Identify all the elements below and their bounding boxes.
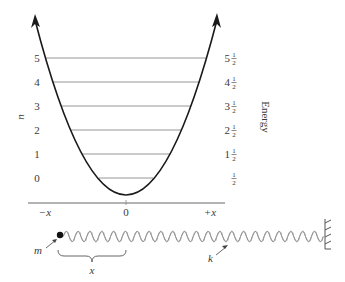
- x-axis-tick-zero: 0: [123, 206, 129, 218]
- energy-label: 312: [225, 99, 237, 115]
- displacement-brace: [58, 250, 126, 262]
- svg-text:5: 5: [225, 52, 231, 64]
- svg-text:1: 1: [232, 123, 236, 131]
- n-label: 2: [34, 124, 40, 136]
- svg-text:1: 1: [225, 148, 231, 160]
- svg-text:1: 1: [232, 75, 236, 83]
- spring-constant-arrowhead-icon: [222, 245, 228, 249]
- n-label: 1: [34, 148, 40, 160]
- svg-text:2: 2: [225, 124, 231, 136]
- potential-parabola: [35, 20, 217, 195]
- displacement-label: x: [89, 264, 95, 276]
- left-arrowhead-icon: [31, 14, 40, 28]
- spring-constant-label: k: [208, 252, 214, 264]
- energy-level-lines: [45, 58, 207, 178]
- svg-text:2: 2: [232, 107, 236, 115]
- n-axis-label: n: [14, 114, 26, 120]
- svg-text:1: 1: [232, 171, 236, 179]
- energy-label: 112: [225, 147, 237, 163]
- mass-dot: [57, 232, 63, 238]
- svg-text:3: 3: [225, 100, 231, 112]
- energy-value-labels: 12112212312412512: [225, 51, 237, 187]
- svg-text:1: 1: [232, 147, 236, 155]
- svg-text:2: 2: [232, 83, 236, 91]
- wall-anchor: [325, 219, 331, 249]
- svg-text:1: 1: [232, 51, 236, 59]
- right-arrowhead-icon: [212, 13, 221, 28]
- svg-text:2: 2: [232, 131, 236, 139]
- energy-label: 12: [232, 171, 237, 187]
- harmonic-oscillator-diagram: 012345 n 12112212312412512 Energy −x 0 +…: [0, 0, 345, 282]
- n-label: 0: [34, 172, 40, 184]
- svg-text:2: 2: [232, 179, 236, 187]
- energy-label: 412: [225, 75, 237, 91]
- svg-text:2: 2: [232, 155, 236, 163]
- svg-text:4: 4: [225, 76, 231, 88]
- n-label: 5: [34, 52, 40, 64]
- mass-label: m: [34, 244, 42, 256]
- energy-label: 512: [225, 51, 237, 67]
- x-axis-tick-neg: −x: [39, 206, 51, 218]
- quantum-number-labels: 012345: [34, 52, 40, 184]
- n-label: 4: [34, 76, 40, 88]
- x-axis-tick-pos: +x: [204, 206, 216, 218]
- n-label: 3: [34, 100, 40, 112]
- energy-axis-label: Energy: [260, 101, 272, 133]
- spring-coil-back: [63, 231, 323, 242]
- svg-text:1: 1: [232, 99, 236, 107]
- svg-text:2: 2: [232, 59, 236, 67]
- energy-label: 212: [225, 123, 237, 139]
